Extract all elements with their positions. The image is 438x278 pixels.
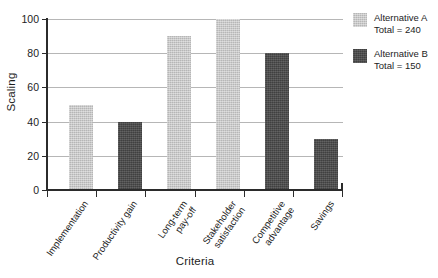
y-tick-label-100: 100 xyxy=(5,14,39,24)
y-tick-20 xyxy=(42,156,47,157)
x-tick-1 xyxy=(96,191,97,197)
y-tick-label-0: 0 xyxy=(5,185,39,195)
legend-entry-alternative-a[interactable]: Alternative A Total = 240 xyxy=(353,12,438,35)
legend-label-b-name: Alternative B xyxy=(374,48,428,60)
x-tick-3 xyxy=(195,191,196,197)
legend-swatch-alternative-b xyxy=(353,49,367,63)
y-tick-100 xyxy=(42,19,47,20)
bar-productivity-gain[interactable] xyxy=(118,122,142,190)
plot-area xyxy=(47,19,343,190)
bar-implementation[interactable] xyxy=(69,105,93,191)
gridline-80 xyxy=(47,53,343,54)
x-tick-6 xyxy=(342,191,343,197)
y-tick-60 xyxy=(42,87,47,88)
y-tick-80 xyxy=(42,53,47,54)
x-tick-2 xyxy=(145,191,146,197)
x-tick-0 xyxy=(47,191,48,197)
legend-label-a-name: Alternative A xyxy=(374,12,427,24)
x-tick-5 xyxy=(293,191,294,197)
y-tick-label-20: 20 xyxy=(5,151,39,161)
gridline-100 xyxy=(47,19,343,20)
x-tick-4 xyxy=(244,191,245,197)
y-tick-40 xyxy=(42,122,47,123)
y-axis-title: Scaling xyxy=(5,47,17,137)
bar-long-term-pay-off[interactable] xyxy=(167,36,191,190)
bar-chart-figure: 100 80 60 40 20 0 Implementation Product… xyxy=(0,0,438,278)
legend-label-b-total: Total = 150 xyxy=(374,60,428,72)
legend-label-alternative-a: Alternative A Total = 240 xyxy=(374,12,427,35)
x-axis-title: Criteria xyxy=(47,255,343,267)
y-axis-line xyxy=(46,18,48,191)
legend-label-a-total: Total = 240 xyxy=(374,24,427,36)
legend-label-alternative-b: Alternative B Total = 150 xyxy=(374,48,428,71)
legend: Alternative A Total = 240 Alternative B … xyxy=(353,12,438,84)
legend-swatch-alternative-a xyxy=(353,13,367,27)
bar-stakeholder-satisfaction[interactable] xyxy=(216,19,240,190)
x-axis-right-cap xyxy=(341,183,343,191)
gridline-60 xyxy=(47,87,343,88)
bar-competitive-advantage[interactable] xyxy=(265,53,289,190)
bar-savings[interactable] xyxy=(314,139,338,190)
legend-entry-alternative-b[interactable]: Alternative B Total = 150 xyxy=(353,48,438,71)
